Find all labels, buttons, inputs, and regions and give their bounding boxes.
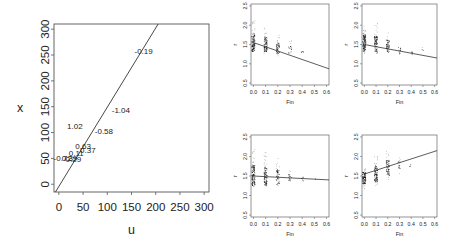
data-point [387, 46, 388, 47]
data-point [399, 173, 400, 174]
data-point [386, 160, 387, 161]
x-tick-label: 0.2 [384, 89, 391, 95]
data-point [389, 160, 390, 161]
data-point [374, 163, 375, 164]
data-point [252, 41, 253, 42]
data-point [255, 183, 256, 184]
data-point [253, 171, 254, 172]
data-point [277, 175, 278, 176]
x-tick-label: 0.5 [419, 221, 426, 227]
data-point [374, 175, 375, 176]
data-point [265, 50, 266, 51]
data-point [387, 168, 388, 169]
data-point [252, 180, 253, 181]
data-point [389, 45, 390, 46]
data-point [377, 39, 378, 40]
data-point [376, 42, 377, 43]
data-point [399, 54, 400, 55]
data-point [389, 51, 390, 52]
data-point [375, 50, 376, 51]
data-point [364, 53, 365, 54]
data-point [266, 168, 267, 169]
data-point [362, 172, 363, 173]
data-point [376, 35, 377, 36]
x-tick-label: 0.6 [431, 221, 438, 227]
data-point [266, 178, 267, 179]
data-point [364, 47, 365, 48]
data-point [365, 43, 366, 44]
data-point [254, 180, 255, 181]
data-point [264, 156, 265, 157]
data-point [388, 45, 389, 46]
data-point [364, 50, 365, 51]
data-point [363, 40, 364, 41]
data-point [386, 163, 387, 164]
data-point [254, 45, 255, 46]
data-point [264, 179, 265, 180]
data-point [364, 43, 365, 44]
y-tick-label: 2.5 [353, 2, 359, 9]
data-point [254, 170, 255, 171]
data-point [277, 170, 278, 171]
data-point [365, 181, 366, 182]
point-label: 0.39 [62, 154, 78, 163]
data-point [279, 166, 280, 167]
data-point [376, 175, 377, 176]
data-point [277, 172, 278, 173]
data-point [363, 49, 364, 50]
data-point [264, 51, 265, 52]
data-point [363, 182, 364, 183]
data-point [377, 181, 378, 182]
data-point [363, 30, 364, 31]
data-point [264, 163, 265, 164]
data-point [387, 164, 388, 165]
data-point [253, 51, 254, 52]
data-point [389, 169, 390, 170]
data-point [376, 178, 377, 179]
data-point [264, 49, 265, 50]
data-point [264, 163, 265, 164]
data-point [253, 48, 254, 49]
data-point [364, 46, 365, 47]
data-point [252, 153, 253, 154]
data-point [399, 160, 400, 161]
data-point [389, 161, 390, 162]
data-point [252, 177, 253, 178]
data-point [364, 33, 365, 34]
data-point [363, 38, 364, 39]
data-point [254, 172, 255, 173]
data-point [289, 171, 290, 172]
data-point [376, 175, 377, 176]
data-point [253, 175, 254, 176]
data-point [252, 175, 253, 176]
data-point [365, 177, 366, 178]
data-point [254, 39, 255, 40]
data-point [252, 49, 253, 50]
data-point [254, 158, 255, 159]
y-tick-label: 1.5 [353, 172, 359, 179]
data-point [388, 174, 389, 175]
data-point [264, 178, 265, 179]
data-point [387, 43, 388, 44]
data-point [376, 163, 377, 164]
data-point [376, 177, 377, 178]
x-tick-label: 0.6 [323, 89, 330, 95]
data-point [291, 51, 292, 52]
data-point [377, 179, 378, 180]
data-point [398, 50, 399, 51]
data-point [376, 39, 377, 40]
data-point [388, 167, 389, 168]
y-tick-label: 1.5 [242, 41, 248, 48]
data-point [278, 43, 279, 44]
data-point [364, 48, 365, 49]
data-point [377, 28, 378, 29]
x-tick-label: 0.2 [274, 221, 281, 227]
data-point [364, 179, 365, 180]
data-points [362, 151, 411, 189]
data-point [253, 151, 254, 152]
data-point [253, 180, 254, 181]
data-point [254, 41, 255, 42]
data-point [266, 183, 267, 184]
data-point [363, 38, 364, 39]
x-tick-label: 0.6 [431, 89, 438, 95]
